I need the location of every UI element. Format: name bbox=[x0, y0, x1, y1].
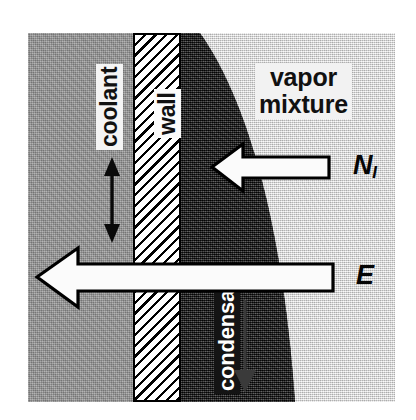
figure-root: vapor mixture coolant wall condensate NI… bbox=[0, 0, 416, 420]
label-coolant: coolant bbox=[96, 64, 123, 150]
label-flux-e: E bbox=[356, 261, 374, 290]
label-vapor-line2: mixture bbox=[259, 91, 348, 118]
label-wall: wall bbox=[154, 89, 181, 138]
label-vapor-line1: vapor bbox=[259, 64, 348, 91]
label-flux-ni-subscript: I bbox=[372, 163, 377, 182]
label-condensate: condensate bbox=[214, 268, 240, 394]
label-flux-ni: NI bbox=[353, 151, 377, 182]
label-vapor-mixture: vapor mixture bbox=[255, 63, 352, 119]
label-flux-ni-base: N bbox=[353, 150, 372, 180]
